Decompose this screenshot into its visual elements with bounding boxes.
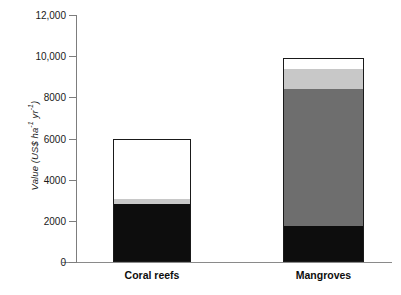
- y-axis-tick-label: 2000: [44, 215, 66, 226]
- y-axis-tick-label: 12,000: [35, 10, 66, 21]
- y-axis-tick-label: 4000: [44, 174, 66, 185]
- y-axis-tick-mark: [69, 139, 77, 140]
- y-axis-tick-mark: [69, 56, 77, 57]
- y-axis-title-middle: yr: [29, 110, 40, 121]
- y-axis-tick-label: 10,000: [35, 51, 66, 62]
- y-axis-tick-label: 6000: [44, 133, 66, 144]
- y-axis-title-sup-1: -1: [27, 121, 34, 127]
- category-label-coral-reefs: Coral reefs: [125, 269, 180, 281]
- y-axis-tick-mark: [69, 221, 77, 222]
- category-label-mangroves: Mangroves: [296, 269, 351, 281]
- y-axis-title-suffix: ): [29, 101, 40, 104]
- y-axis-tick-mark: [69, 97, 77, 98]
- chart-figure: Value (US$ ha-1 yr-1) 12,00010,000800060…: [0, 0, 401, 295]
- y-axis-tick-mark: [69, 15, 77, 16]
- bar-segment-white-segment: [114, 140, 190, 200]
- bar-segment-black-segment: [284, 226, 363, 261]
- y-axis-tick-label: 8000: [44, 92, 66, 103]
- x-axis-baseline: [62, 262, 392, 263]
- y-axis-tick-label: 0: [60, 257, 66, 268]
- bar-coral-reefs: [113, 139, 191, 263]
- bar-mangroves: [283, 58, 364, 262]
- bar-segment-white-segment: [284, 59, 363, 69]
- plot-area: 12,00010,00080006000400020000 Coral reef…: [76, 15, 392, 262]
- y-axis-title-sup-2: -1: [27, 104, 34, 110]
- bar-segment-dark-gray-segment: [284, 89, 363, 227]
- y-axis-tick-mark: [69, 262, 77, 263]
- y-axis-title-prefix: Value (US$ ha: [29, 128, 40, 191]
- y-axis-tick-mark: [69, 180, 77, 181]
- y-axis-title: Value (US$ ha-1 yr-1): [29, 66, 40, 226]
- bar-segment-light-gray-segment: [284, 69, 363, 89]
- bar-segment-black-segment: [114, 204, 190, 261]
